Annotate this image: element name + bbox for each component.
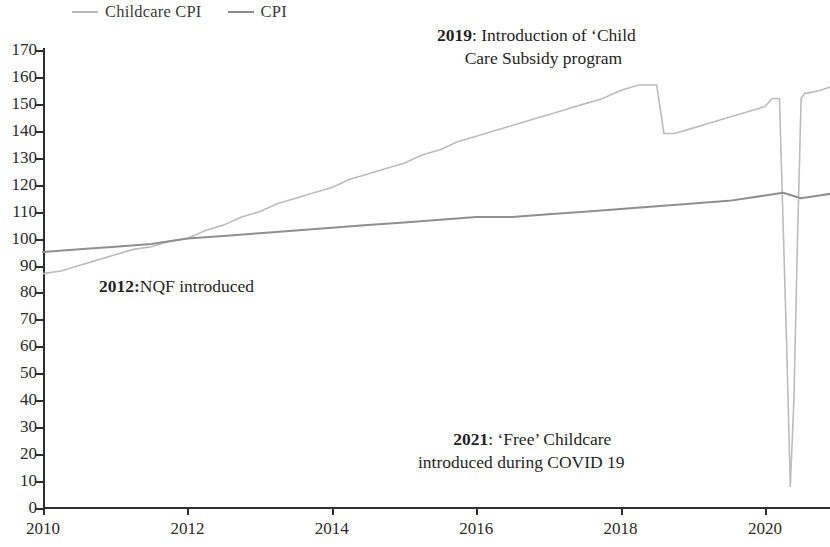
annotation-child-care-subsidy: 2019: Introduction of ‘Child Care Subsid… <box>437 24 636 70</box>
x-axis-tick-mark <box>765 507 767 515</box>
y-axis-tick-label: 110 <box>12 201 37 221</box>
chart-figure: Childcare CPI CPI 0102030405060708090100… <box>0 0 830 547</box>
chart-series-layer <box>0 0 830 547</box>
chart-legend: Childcare CPI CPI <box>72 0 287 24</box>
y-axis-tick-label: 150 <box>12 93 38 113</box>
y-axis-tick-label: 100 <box>12 228 38 248</box>
x-axis-tick-label: 2020 <box>748 519 782 539</box>
x-axis-tick-label: 2014 <box>315 519 349 539</box>
y-axis-tick-label: 20 <box>20 444 37 464</box>
legend-item-childcare-cpi: Childcare CPI <box>72 2 202 22</box>
annotation-year-2012: 2012: <box>99 276 140 296</box>
x-axis-tick-mark <box>332 507 334 515</box>
x-axis-spine <box>43 507 830 509</box>
x-axis-tick-mark <box>476 507 478 515</box>
y-axis-tick-label: 170 <box>12 40 38 60</box>
line-dash-icon <box>228 11 254 13</box>
x-axis-tick-label: 2018 <box>604 519 638 539</box>
y-axis-tick-label: 0 <box>29 498 38 518</box>
x-axis-tick-mark <box>187 507 189 515</box>
y-axis-spine <box>43 48 45 510</box>
x-axis-tick-label: 2010 <box>26 519 60 539</box>
series-line-cpi <box>43 174 830 252</box>
annotation-text-2021-line2: introduced during COVID 19 <box>418 451 625 474</box>
annotation-text-2019-line1: : Introduction of ‘Child <box>472 25 636 45</box>
y-axis-tick-label: 80 <box>20 282 37 302</box>
legend-label-cpi: CPI <box>261 2 287 22</box>
y-axis-tick-label: 60 <box>20 336 37 356</box>
annotation-nqf-introduced: 2012:NQF introduced <box>99 275 254 298</box>
y-axis-tick-label: 10 <box>20 471 37 491</box>
x-axis-tick-label: 2016 <box>459 519 493 539</box>
legend-label-childcare-cpi: Childcare CPI <box>105 2 202 22</box>
y-axis-tick-label: 140 <box>12 120 38 140</box>
y-axis-tick-label: 30 <box>20 417 37 437</box>
annotation-year-2021: 2021 <box>453 429 488 449</box>
y-axis-tick-label: 50 <box>20 363 37 383</box>
x-axis-tick-label: 2012 <box>170 519 204 539</box>
y-axis-tick-label: 70 <box>20 309 37 329</box>
x-axis-tick-mark <box>621 507 623 515</box>
x-axis-tick-mark <box>43 507 45 515</box>
annotation-text-2019-line2: Care Subsidy program <box>451 47 636 70</box>
y-axis-tick-label: 130 <box>12 147 38 167</box>
annotation-year-2019: 2019 <box>437 25 472 45</box>
annotation-free-childcare-covid: 2021: ‘Free’ Childcare introduced during… <box>440 428 625 474</box>
legend-item-cpi: CPI <box>228 2 287 22</box>
y-axis-tick-label: 90 <box>20 255 37 275</box>
y-axis-tick-label: 40 <box>20 390 37 410</box>
y-axis-tick-label: 160 <box>12 67 38 87</box>
annotation-text-2012: NQF introduced <box>140 276 254 296</box>
y-axis-tick-label: 120 <box>12 174 38 194</box>
annotation-text-2021-line1: : ‘Free’ Childcare <box>488 429 611 449</box>
line-dash-icon <box>72 11 98 13</box>
